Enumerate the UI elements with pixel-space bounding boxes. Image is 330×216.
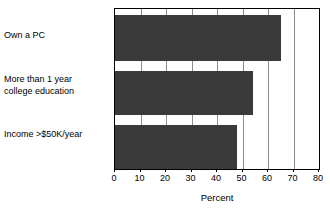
bar-own-a-pc	[115, 15, 281, 61]
x-tick-label: 10	[128, 173, 152, 184]
bar-income	[115, 125, 237, 169]
x-tick-mark	[293, 169, 294, 172]
x-tick-label: 20	[153, 173, 177, 184]
plot-area	[114, 8, 320, 170]
x-tick-mark	[267, 169, 268, 172]
category-label-college-education: More than 1 year college education	[4, 74, 102, 97]
category-axis-labels: Own a PC More than 1 year college educat…	[0, 0, 108, 216]
x-tick-label: 0	[102, 173, 126, 184]
x-tick-label: 40	[204, 173, 228, 184]
bar-chart-figure: Own a PC More than 1 year college educat…	[0, 0, 330, 216]
x-axis-title: Percent	[114, 192, 320, 203]
x-tick-mark	[242, 169, 243, 172]
x-tick-mark	[140, 169, 141, 172]
x-tick-mark	[191, 169, 192, 172]
bar-college-education	[115, 71, 253, 115]
x-tick-label: 70	[281, 173, 305, 184]
x-tick-label: 50	[230, 173, 254, 184]
x-tick-mark	[318, 169, 319, 172]
category-label-income: Income >$50K/year	[4, 129, 102, 141]
x-tick-mark	[114, 169, 115, 172]
x-tick-mark	[165, 169, 166, 172]
x-tick-label: 60	[255, 173, 279, 184]
category-label-own-a-pc: Own a PC	[4, 30, 102, 42]
x-tick-mark	[216, 169, 217, 172]
gridline-70	[294, 9, 295, 169]
x-tick-label: 80	[306, 173, 330, 184]
x-tick-label: 30	[179, 173, 203, 184]
